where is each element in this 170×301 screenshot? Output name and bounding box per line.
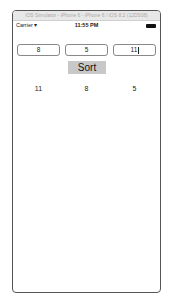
result-2: 8 xyxy=(65,85,108,92)
result-3: 5 xyxy=(113,85,156,92)
input-value: 8 xyxy=(37,46,41,53)
number-input-2[interactable]: 5 xyxy=(65,44,108,56)
text-cursor xyxy=(138,47,139,54)
number-inputs: 8 5 11 xyxy=(17,44,156,56)
battery-icon xyxy=(146,24,156,28)
status-bar: Carrier ▾ 11:55 PM xyxy=(13,21,160,30)
result-1: 11 xyxy=(17,85,60,92)
input-value: 5 xyxy=(85,46,89,53)
window-title: iOS Simulator - iPhone 6 - iPhone 6 / iO… xyxy=(13,11,160,21)
number-input-1[interactable]: 8 xyxy=(17,44,60,56)
number-input-3[interactable]: 11 xyxy=(113,44,156,56)
sort-button[interactable]: Sort xyxy=(68,61,106,74)
input-value: 11 xyxy=(131,46,138,53)
simulator-window: iOS Simulator - iPhone 6 - iPhone 6 / iO… xyxy=(12,10,161,293)
status-time: 11:55 PM xyxy=(13,21,160,30)
sorted-results: 11 8 5 xyxy=(17,85,156,95)
